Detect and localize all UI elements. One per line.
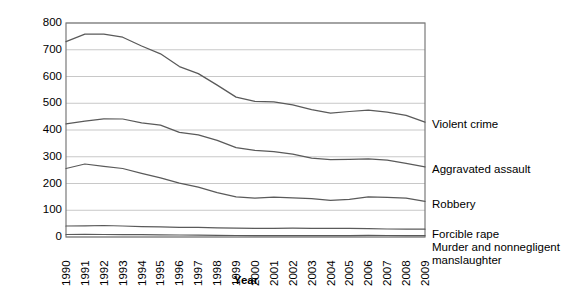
series-label: Murder and nonnegligent manslaughter — [432, 241, 560, 266]
crime-rate-line-chart: Crime rate (per 100,000 population) 8007… — [0, 0, 578, 296]
series-label: Robbery — [432, 198, 475, 211]
x-axis-title: Year — [66, 274, 426, 286]
series-label: Forcible rape — [432, 228, 499, 241]
series-label: Aggravated assault — [432, 163, 530, 176]
series-label: Violent crime — [432, 118, 498, 131]
